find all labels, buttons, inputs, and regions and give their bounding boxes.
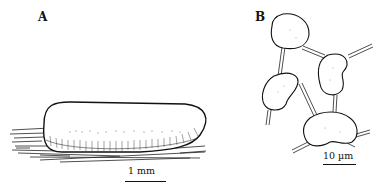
scale-label-a: 1 mm: [128, 165, 155, 176]
egg-drawing: [44, 102, 206, 152]
cell-3: [262, 73, 298, 110]
scale-label-b: 10 µm: [323, 150, 353, 161]
cells: [262, 14, 357, 146]
cell-1: [271, 14, 309, 49]
cell-4: [304, 112, 357, 146]
cell-2: [319, 54, 347, 95]
scale-bar-a: [125, 181, 166, 182]
scale-bar-b: [323, 164, 356, 165]
